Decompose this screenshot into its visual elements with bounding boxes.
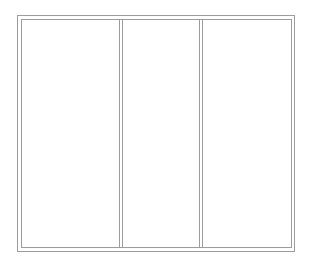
left-panel — [22, 20, 119, 247]
divider-1-left-line[interactable] — [119, 19, 120, 248]
inner-frame-bottom — [21, 247, 292, 248]
outer-frame-bottom — [17, 251, 295, 252]
divider-2-right-line[interactable] — [202, 19, 203, 248]
divider-2-left-line[interactable] — [199, 19, 200, 248]
right-panel — [203, 20, 291, 247]
divider-1-right-line[interactable] — [122, 19, 123, 248]
inner-frame-right — [291, 19, 292, 248]
outer-frame-right — [294, 15, 295, 252]
middle-panel — [123, 20, 199, 247]
outer-frame-top — [17, 15, 295, 16]
outer-frame-left — [17, 15, 18, 252]
